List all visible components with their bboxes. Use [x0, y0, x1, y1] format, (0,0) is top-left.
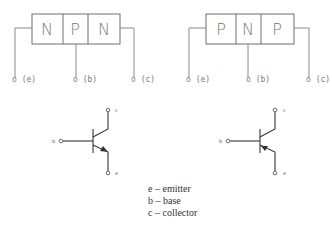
legend-emitter: e – emitter: [148, 183, 197, 195]
svg-text:e: e: [283, 170, 286, 176]
npn-structure: N P N o (e) o (b) o (c): [12, 14, 155, 84]
npn-symbol: b c e: [52, 107, 118, 176]
svg-text:c: c: [115, 107, 118, 113]
pnp-region-3: P: [272, 20, 282, 39]
pnp-terminal-c: o (c): [306, 75, 330, 84]
svg-text:e: e: [115, 170, 118, 176]
pnp-symbol: b c e: [219, 107, 286, 176]
npn-terminal-c: o (c): [131, 75, 155, 84]
svg-text:c: c: [283, 107, 286, 113]
svg-text:b: b: [52, 138, 55, 144]
npn-region-3: N: [98, 20, 110, 39]
legend-collector: c – collector: [148, 207, 197, 219]
pnp-region-1: P: [216, 20, 226, 39]
legend-base: b – base: [148, 195, 197, 207]
legend: e – emitter b – base c – collector: [148, 183, 197, 219]
npn-region-2: P: [70, 20, 80, 39]
pnp-structure: P N P o (e) o (b) o (c): [186, 14, 330, 84]
pnp-region-2: N: [242, 20, 254, 39]
npn-terminal-b: o (b): [73, 75, 97, 84]
npn-region-1: N: [41, 20, 53, 39]
npn-terminal-e: o (e): [12, 75, 36, 84]
pnp-terminal-b: o (b): [246, 75, 270, 84]
svg-text:b: b: [219, 138, 222, 144]
pnp-terminal-e: o (e): [186, 75, 210, 84]
